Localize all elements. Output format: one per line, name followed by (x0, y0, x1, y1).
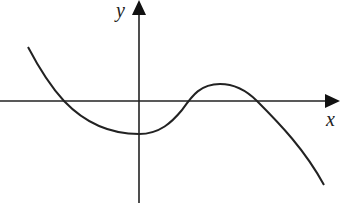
x-axis-arrow-icon (325, 94, 340, 108)
y-axis-label: y (114, 0, 125, 22)
y-axis-arrow-icon (132, 0, 146, 15)
function-curve (28, 47, 324, 185)
function-graph: y x (0, 0, 341, 203)
x-axis-label: x (325, 108, 335, 130)
